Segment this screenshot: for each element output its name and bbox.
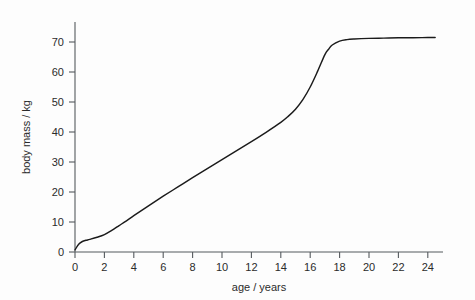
x-tick-label: 22 bbox=[392, 261, 404, 273]
y-tick-label: 30 bbox=[52, 156, 64, 168]
x-tick-label: 16 bbox=[304, 261, 316, 273]
chart-figure: 0 10 20 30 40 50 60 70 0 bbox=[0, 0, 475, 300]
y-tick-label: 60 bbox=[52, 66, 64, 78]
growth-chart-svg: 0 10 20 30 40 50 60 70 0 bbox=[0, 0, 475, 300]
y-tick-label: 50 bbox=[52, 96, 64, 108]
x-tick-label: 0 bbox=[72, 261, 78, 273]
y-tick-label: 70 bbox=[52, 36, 64, 48]
x-tick-label: 18 bbox=[333, 261, 345, 273]
x-tick-label: 2 bbox=[101, 261, 107, 273]
y-axis-title: body mass / kg bbox=[20, 100, 32, 174]
y-tick-label: 10 bbox=[52, 216, 64, 228]
x-tick-label: 14 bbox=[275, 261, 287, 273]
x-tick-label: 20 bbox=[363, 261, 375, 273]
x-tick-label: 12 bbox=[245, 261, 257, 273]
x-tick-label: 4 bbox=[131, 261, 137, 273]
y-tick-label: 0 bbox=[58, 246, 64, 258]
y-tick-label: 40 bbox=[52, 126, 64, 138]
x-axis-title: age / years bbox=[232, 281, 287, 293]
x-tick-label: 24 bbox=[422, 261, 434, 273]
x-tick-label: 10 bbox=[216, 261, 228, 273]
y-tick-label: 20 bbox=[52, 186, 64, 198]
x-tick-label: 6 bbox=[160, 261, 166, 273]
x-tick-label: 8 bbox=[190, 261, 196, 273]
